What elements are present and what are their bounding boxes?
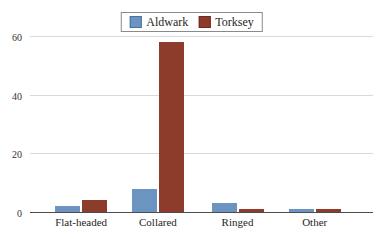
y-axis: 0204060 — [0, 37, 24, 213]
bar-torksey-flat-headed — [82, 200, 107, 212]
bar-group-collared — [132, 42, 184, 212]
legend-swatch-torksey — [198, 16, 210, 28]
gridline-40 — [30, 95, 373, 96]
bar-aldwark-collared — [132, 189, 157, 212]
bar-chart: Aldwark Torksey 0204060 Flat-headedColla… — [0, 0, 383, 239]
bar-group-other — [289, 209, 341, 212]
bar-aldwark-other — [289, 209, 314, 212]
legend: Aldwark Torksey — [120, 12, 262, 32]
gridline-60 — [30, 36, 373, 37]
bar-aldwark-ringed — [212, 203, 237, 212]
y-tick-label-60: 60 — [12, 32, 22, 43]
bar-group-ringed — [212, 203, 264, 212]
x-axis-labels: Flat-headedCollaredRingedOther — [30, 216, 373, 232]
bar-torksey-ringed — [239, 209, 264, 212]
bar-group-flat-headed — [55, 200, 107, 212]
x-category-label-other: Other — [302, 216, 327, 228]
gridline-20 — [30, 153, 373, 154]
x-category-label-ringed: Ringed — [222, 216, 254, 228]
y-tick-label-40: 40 — [12, 90, 22, 101]
legend-label-torksey: Torksey — [215, 16, 253, 28]
bar-torksey-collared — [159, 42, 184, 212]
bar-aldwark-flat-headed — [55, 206, 80, 212]
legend-label-aldwark: Aldwark — [146, 16, 193, 28]
y-tick-label-20: 20 — [12, 149, 22, 160]
y-tick-label-0: 0 — [17, 208, 22, 219]
bar-torksey-other — [316, 209, 341, 212]
x-axis-line — [30, 212, 373, 213]
plot-area — [30, 37, 373, 213]
x-category-label-collared: Collared — [139, 216, 177, 228]
legend-swatch-aldwark — [129, 16, 141, 28]
x-category-label-flat-headed: Flat-headed — [55, 216, 107, 228]
